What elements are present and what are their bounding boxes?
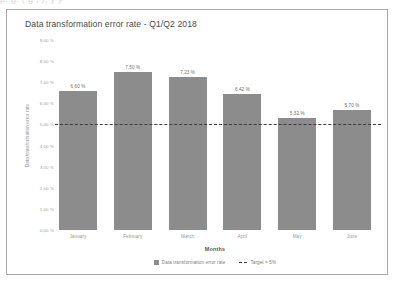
- bar-column[interactable]: 7,50 %: [114, 40, 152, 230]
- x-axis-tick-label: March: [169, 234, 207, 239]
- bar-value-label: 7,23 %: [180, 70, 195, 75]
- y-axis-title-label: Data transformation error rate: [26, 103, 31, 167]
- bar-value-label: 6,42 %: [235, 87, 250, 92]
- bar-column[interactable]: 7,23 %: [169, 40, 207, 230]
- x-axis-tick-label: May: [278, 234, 316, 239]
- legend-label: Data transformation error rate: [162, 260, 226, 265]
- bar-value-label: 7,50 %: [125, 65, 140, 70]
- x-axis-tick-label: February: [114, 234, 152, 239]
- chart-legend: Data transformation error rateTarget = 5…: [59, 260, 371, 265]
- legend-dashed-line-icon: [239, 262, 247, 263]
- bar-column[interactable]: 6,42 %: [223, 40, 261, 230]
- bar[interactable]: [333, 110, 371, 230]
- x-axis-tick-label: April: [223, 234, 261, 239]
- bar-column[interactable]: 5,70 %: [333, 40, 371, 230]
- y-axis-tick-label: 6,00 %: [40, 101, 54, 106]
- page-text-bleed: p. g. ( g , ), y y: [0, 0, 396, 4]
- bar[interactable]: [59, 91, 97, 230]
- bar-column[interactable]: 6,60 %: [59, 40, 97, 230]
- target-line: [55, 124, 381, 125]
- x-axis-title: Months: [59, 246, 371, 252]
- bar[interactable]: [169, 77, 207, 230]
- y-axis-title: Data transformation error rate: [23, 40, 33, 230]
- x-axis-tick-labels: JanuaryFebruaryMarchAprilMayJune: [59, 234, 371, 239]
- bar-value-label: 5,70 %: [345, 103, 360, 108]
- y-axis-tick-label: 8,00 %: [40, 59, 54, 64]
- y-axis-tick-label: 2,00 %: [40, 185, 54, 190]
- bar[interactable]: [223, 94, 261, 230]
- y-axis-tick-label: 0,00 %: [40, 228, 54, 233]
- x-axis-tick-label: January: [59, 234, 97, 239]
- chart-frame: Data transformation error rate - Q1/Q2 2…: [6, 9, 388, 275]
- y-axis-tick-label: 7,00 %: [40, 80, 54, 85]
- bar-value-label: 5,32 %: [290, 111, 305, 116]
- chart-title: Data transformation error rate - Q1/Q2 2…: [25, 19, 197, 29]
- legend-item[interactable]: Data transformation error rate: [154, 260, 226, 265]
- y-axis-tick-label: 4,00 %: [40, 143, 54, 148]
- bar-column[interactable]: 5,32 %: [278, 40, 316, 230]
- bar-value-label: 6,60 %: [71, 84, 86, 89]
- y-axis-tick-label: 1,00 %: [40, 206, 54, 211]
- plot-area: 0,00 %1,00 %2,00 %3,00 %4,00 %5,00 %6,00…: [59, 40, 371, 230]
- bar[interactable]: [278, 118, 316, 230]
- legend-item[interactable]: Target = 5%: [239, 260, 276, 265]
- y-axis-tick-label: 5,00 %: [40, 122, 54, 127]
- bar-series: 6,60 %7,50 %7,23 %6,42 %5,32 %5,70 %: [59, 40, 371, 230]
- legend-label: Target = 5%: [250, 260, 276, 265]
- bar[interactable]: [114, 72, 152, 230]
- x-axis-tick-label: June: [333, 234, 371, 239]
- y-axis-tick-label: 3,00 %: [40, 164, 54, 169]
- y-axis-tick-label: 9,00 %: [40, 38, 54, 43]
- legend-square-icon: [154, 260, 159, 265]
